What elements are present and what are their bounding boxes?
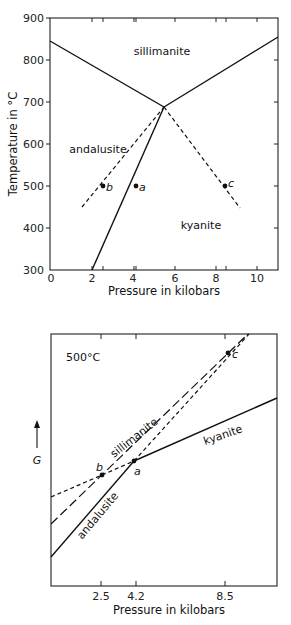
- pt-y-tick-400: 400: [23, 222, 44, 235]
- pt-x-tick-2: 2: [89, 272, 96, 285]
- gp-x-tick-8.5: 8.5: [216, 590, 234, 603]
- point-b-label: b: [106, 181, 113, 194]
- gp-point-c-label: c: [232, 348, 238, 361]
- point-b-marker: [101, 184, 106, 189]
- pt-y-tick-600: 600: [23, 138, 44, 151]
- region-andalusite: andalusite: [69, 143, 127, 156]
- gp-point-a-marker: [132, 459, 137, 464]
- gp-plot-frame: [51, 334, 277, 586]
- andalusite-kyanite-boundary: [92, 107, 164, 270]
- gp-x-tick-4.2: 4.2: [127, 590, 145, 603]
- kyanite-g-line: [134, 398, 277, 461]
- gp-andalusite-label: andalusite: [74, 489, 121, 541]
- gp-x-tick-2.5: 2.5: [92, 590, 110, 603]
- pt-x-tick-10: 10: [250, 272, 264, 285]
- metastable-extension-c: [164, 107, 240, 208]
- point-a-label: a: [139, 181, 146, 194]
- pt-y-tick-500: 500: [23, 180, 44, 193]
- phase-diagram-figure: 900 800 700 600 500 400 300 0 2 4 6 8 10…: [0, 0, 291, 625]
- pt-y-tick-700: 700: [23, 96, 44, 109]
- point-a-marker: [134, 184, 139, 189]
- pt-diagram: 900 800 700 600 500 400 300 0 2 4 6 8 10…: [6, 12, 278, 298]
- metastable-extension-b: [82, 107, 164, 207]
- gp-x-axis-title: Pressure in kilobars: [113, 603, 225, 617]
- temperature-label: 500°C: [66, 351, 100, 364]
- gp-point-c-marker: [226, 351, 231, 356]
- g-arrow-icon: [34, 420, 40, 448]
- region-kyanite: kyanite: [181, 219, 222, 232]
- g-axis-label: G: [33, 454, 42, 467]
- pt-x-axis-title: Pressure in kilobars: [108, 284, 220, 298]
- metastable-g-line-left: [51, 475, 102, 497]
- pt-y-tick-900: 900: [23, 12, 44, 25]
- region-sillimanite: sillimanite: [134, 45, 191, 58]
- gp-point-a-label: a: [134, 465, 141, 478]
- point-c-marker: [223, 184, 228, 189]
- gp-sillimanite-label: sillimanite: [108, 415, 161, 460]
- pt-y-tick-300: 300: [23, 264, 44, 277]
- gp-kyanite-label: kyanite: [202, 422, 245, 447]
- gp-point-b-label: b: [96, 461, 103, 474]
- gp-x-ticks: [101, 334, 225, 586]
- pt-y-axis-title: Temperature in °C: [6, 92, 20, 197]
- pt-y-tick-800: 800: [23, 54, 44, 67]
- g-p-diagram: 2.5 4.2 8.5 Pressure in kilobars 500°C G…: [33, 334, 277, 617]
- pt-x-tick-0: 0: [48, 272, 55, 285]
- point-c-label: c: [228, 177, 234, 190]
- andalusite-g-line: [51, 461, 134, 557]
